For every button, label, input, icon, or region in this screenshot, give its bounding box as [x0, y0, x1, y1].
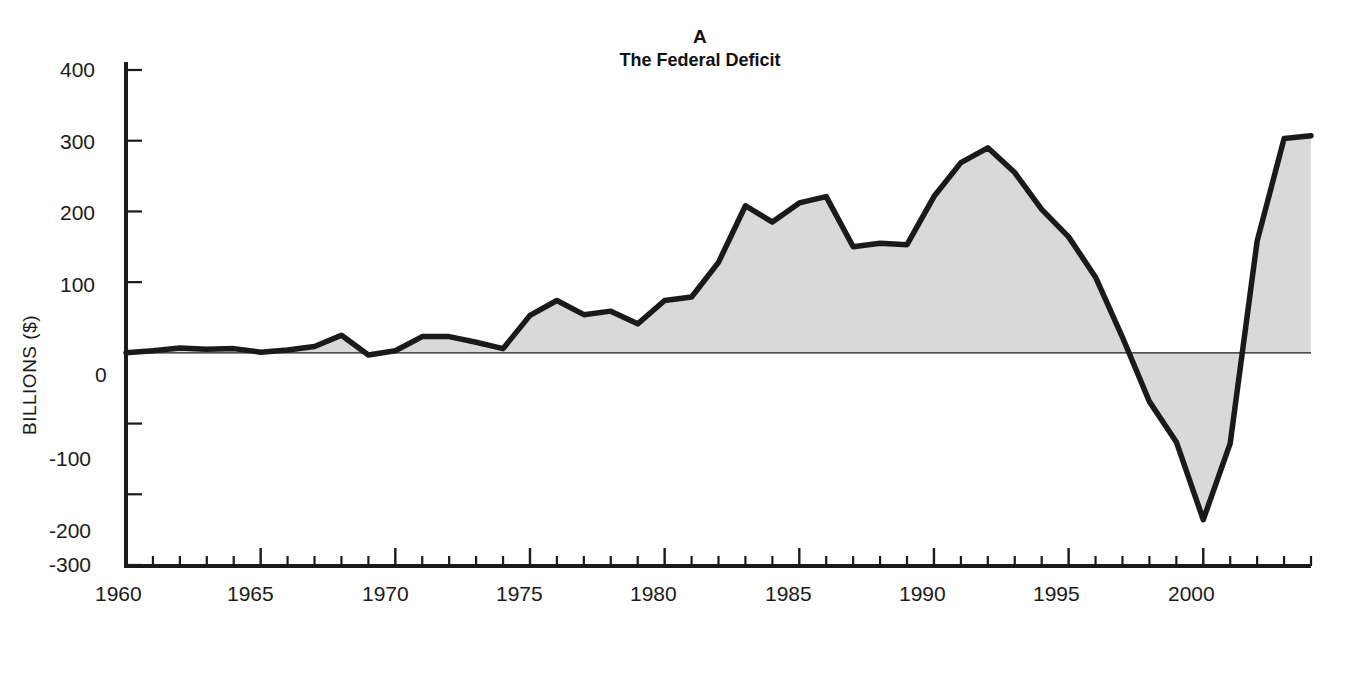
- y-tick-label-neg100: -100: [49, 447, 91, 471]
- y-axis-label: BILLIONS ($): [19, 315, 40, 435]
- x-tick-label-1960: 1960: [95, 582, 142, 606]
- x-tick-label-1965: 1965: [227, 582, 274, 606]
- x-tick-label-1970: 1970: [362, 582, 409, 606]
- y-tick-label-400: 400: [60, 58, 95, 82]
- y-tick-label-neg200: -200: [49, 519, 91, 543]
- y-tick-label-0: 0: [95, 363, 107, 387]
- y-tick-label-100: 100: [60, 273, 95, 297]
- y-axis-ticks: [126, 70, 142, 565]
- x-tick-label-1975: 1975: [496, 582, 543, 606]
- y-tick-label-neg300: -300: [49, 553, 91, 577]
- figure-panel-a: BILLIONS ($) A The Federal Deficit 400 3…: [0, 0, 1356, 679]
- x-tick-label-2000: 2000: [1168, 582, 1215, 606]
- x-tick-label-1995: 1995: [1033, 582, 1080, 606]
- x-tick-label-1980: 1980: [630, 582, 677, 606]
- y-tick-label-200: 200: [60, 201, 95, 225]
- x-tick-label-1985: 1985: [765, 582, 812, 606]
- federal-deficit-chart: BILLIONS ($): [0, 0, 1356, 679]
- deficit-area-fill: [126, 136, 1311, 520]
- y-tick-label-300: 300: [60, 130, 95, 154]
- x-tick-label-1990: 1990: [899, 582, 946, 606]
